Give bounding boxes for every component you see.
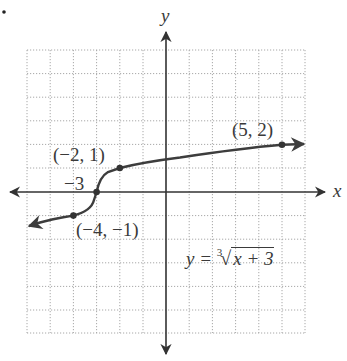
function-equation: y = 3√x + 3 [186,246,274,270]
point-5-2 [279,142,286,149]
equation-lhs: y = [186,248,212,269]
radicand: x + 3 [231,247,273,269]
exercise-marker-dot [2,10,6,14]
x-intercept-label: −3 [64,174,84,193]
point-label-neg2-1: (−2, 1) [53,145,105,164]
point-neg3-0 [93,189,100,196]
point-neg4-neg1 [70,212,77,219]
x-axis-label: x [333,181,341,200]
point-label-5-2: (5, 2) [232,120,273,139]
point-neg2-1 [117,165,124,172]
point-label-neg4-neg1: (−4, −1) [76,220,139,239]
y-axis-label: y [161,6,169,25]
radical-sign-icon: √ [220,247,231,269]
graph-canvas [0,0,347,361]
